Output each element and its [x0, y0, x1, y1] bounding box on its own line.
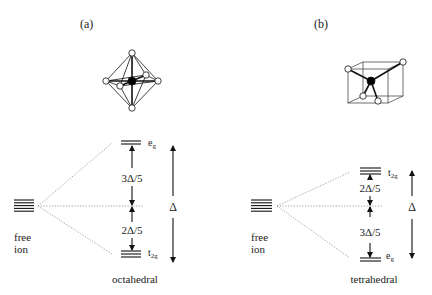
ligand-atom [345, 66, 351, 72]
panel-a: (a) [14, 17, 177, 285]
metal-ion [367, 77, 375, 85]
upper-gap-label-b: 2Δ/5 [359, 182, 381, 194]
panel-b: (b) [251, 17, 416, 285]
metal-ion [128, 77, 136, 85]
free-ion-levels-b [251, 200, 272, 211]
lower-gap-label-b: 3Δ/5 [359, 226, 381, 238]
ligand-atom [375, 98, 381, 104]
ligand-atom [155, 78, 161, 84]
ligand-atom [129, 105, 135, 111]
t2g-levels-a [121, 251, 141, 257]
panel-b-label: (b) [314, 17, 328, 31]
ligand-atom [117, 83, 123, 89]
octahedral-caption: octahedral [112, 273, 158, 285]
tetrahedral-bonds [348, 62, 403, 101]
ligand-atom [129, 50, 135, 56]
eg-levels-b [360, 258, 381, 261]
free-ion-label-line1: free [251, 231, 268, 243]
eg-levels-a [121, 141, 141, 144]
lower-gap-label-a: 2Δ/5 [121, 224, 143, 236]
eg-label-b: eg [386, 250, 394, 263]
free-ion-levels-a [14, 200, 34, 211]
tetrahedral-caption: tetrahedral [350, 273, 397, 285]
cube-structure [348, 62, 403, 103]
ligand-atom [400, 59, 406, 65]
t2g-label-a: t2g [148, 247, 158, 260]
free-ion-label-line1: free [14, 231, 31, 243]
t2g-label-b: t2g [388, 167, 398, 180]
delta-label-b: Δ [408, 200, 416, 214]
ligand-atom [143, 72, 149, 78]
free-ion-label-line2: ion [251, 243, 266, 255]
free-ion-label-line2: ion [14, 243, 29, 255]
delta-label-a: Δ [169, 200, 177, 214]
ligand-atom [103, 78, 109, 84]
eg-label-a: eg [148, 137, 156, 150]
crystal-field-diagram: (a) [0, 0, 432, 295]
t2g-levels-b [360, 168, 381, 174]
correlation-lines-a [38, 143, 143, 254]
ligand-atom [360, 93, 366, 99]
upper-gap-label-a: 3Δ/5 [121, 172, 143, 184]
panel-a-label: (a) [80, 17, 93, 31]
